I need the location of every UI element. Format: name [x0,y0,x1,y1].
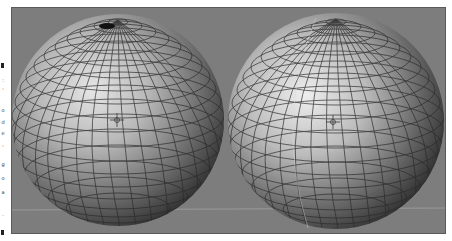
gutter-mark-top [1,63,4,68]
gutter-glyph: g [0,162,6,167]
gutter-glyph: ' [0,145,6,150]
gutter-glyph: : [0,78,6,83]
gutter-glyph: . [0,212,6,217]
gutter-glyph: o [0,176,6,181]
gutter-glyph: d [0,120,6,125]
gutter-glyph: o [0,108,6,113]
gutter-glyph: ' [0,88,6,93]
pinched-pole [99,23,115,29]
gutter-glyph: a [0,190,6,195]
3d-viewport[interactable] [11,7,446,234]
gutter-glyph: e [0,131,6,136]
left-sphere[interactable] [12,14,224,226]
viewport-canvas[interactable] [12,8,446,234]
gutter-mark-bottom [1,230,4,235]
page-gutter: : ' o d e ' g o a . [0,0,10,241]
right-sphere[interactable] [228,13,444,229]
